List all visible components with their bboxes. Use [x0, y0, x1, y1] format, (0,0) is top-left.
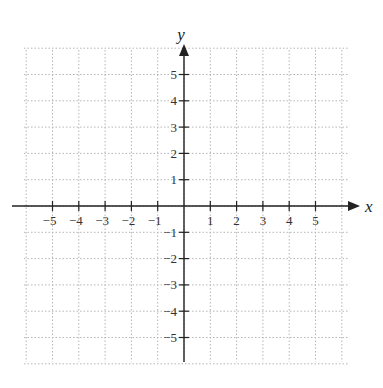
x-tick-label: 1 — [207, 213, 214, 228]
x-tick-label: −4 — [69, 213, 83, 228]
x-tick-label: 3 — [260, 213, 267, 228]
x-tick-label: −5 — [43, 213, 57, 228]
axes — [12, 44, 360, 362]
y-tick-label: −2 — [163, 251, 177, 266]
y-tick-label: −4 — [163, 304, 177, 319]
x-tick-label: −1 — [148, 213, 162, 228]
y-axis-arrow-icon — [179, 44, 189, 56]
y-tick-label: 5 — [171, 67, 178, 82]
x-tick-label: 4 — [286, 213, 293, 228]
y-tick-label: 1 — [171, 172, 178, 187]
x-axis-label: x — [364, 197, 373, 216]
x-tick-label: 5 — [312, 213, 319, 228]
x-tick-label: −2 — [121, 213, 135, 228]
y-tick-label: 4 — [171, 93, 178, 108]
y-tick-label: 2 — [171, 146, 178, 161]
y-tick-label: 3 — [171, 120, 178, 135]
y-tick-label: −3 — [163, 277, 177, 292]
y-axis-label: y — [175, 25, 185, 44]
x-tick-label: −3 — [95, 213, 109, 228]
x-tick-label: 2 — [233, 213, 240, 228]
coordinate-plane: −5−4−3−2−112345−5−4−3−2−112345 x y — [0, 0, 383, 388]
y-tick-label: −5 — [163, 330, 177, 345]
y-tick-label: −1 — [163, 225, 177, 240]
x-axis-arrow-icon — [348, 201, 360, 211]
